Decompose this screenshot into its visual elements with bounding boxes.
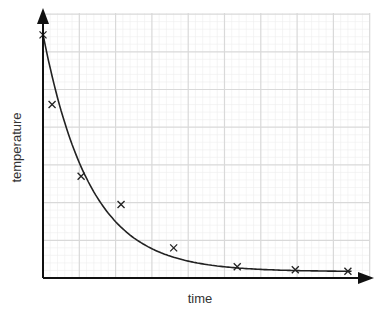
chart-area (0, 0, 380, 311)
y-axis-label: temperature (9, 108, 24, 188)
x-axis-label: time (170, 291, 230, 306)
minor-grid (43, 13, 370, 278)
major-grid (43, 13, 370, 278)
y-axis-arrow-icon (37, 8, 49, 24)
axes (37, 8, 374, 284)
x-axis-arrow-icon (358, 272, 374, 284)
decay-curve (43, 34, 352, 271)
